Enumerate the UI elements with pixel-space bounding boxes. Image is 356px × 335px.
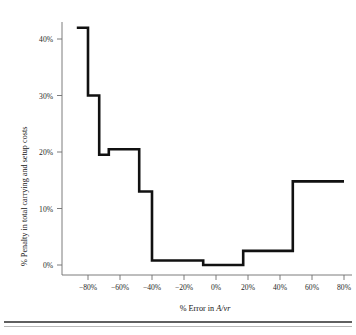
x-tick-label-minus40: −40%: [143, 283, 162, 292]
penalty-vs-error-chart: % Penalty in total carrying and setup co…: [0, 0, 356, 335]
x-tick-label-40: 40%: [273, 283, 288, 292]
x-tick-label-zero: 0%: [211, 283, 222, 292]
y-tick-label-20: 20%: [39, 148, 54, 157]
y-axis-ticks: 0% 10% 20% 30% 40%: [39, 35, 62, 270]
x-tick-label-minus80: −80%: [79, 283, 98, 292]
x-tick-label-minus20: −20%: [175, 283, 194, 292]
x-axis-title-plain: % Error in: [180, 304, 217, 313]
x-tick-label-20: 20%: [241, 283, 256, 292]
penalty-step-line: [77, 28, 344, 265]
x-axis-ticks: −80% −60% −40% −20% 0% 20% 40% 60% 80%: [79, 275, 352, 292]
x-tick-label-60: 60%: [305, 283, 320, 292]
x-axis-title: % Error in A/vr: [180, 304, 232, 313]
y-tick-label-40: 40%: [39, 35, 54, 44]
y-tick-label-30: 30%: [39, 92, 54, 101]
figure-container: % Penalty in total carrying and setup co…: [0, 0, 356, 335]
y-tick-label-0: 0%: [43, 261, 54, 270]
x-tick-label-minus60: −60%: [111, 283, 130, 292]
x-axis-title-italic: A/vr: [215, 304, 231, 313]
y-tick-label-10: 10%: [39, 205, 54, 214]
x-tick-label-80: 80%: [337, 283, 352, 292]
y-axis-title: % Penalty in total carrying and setup co…: [20, 127, 29, 266]
